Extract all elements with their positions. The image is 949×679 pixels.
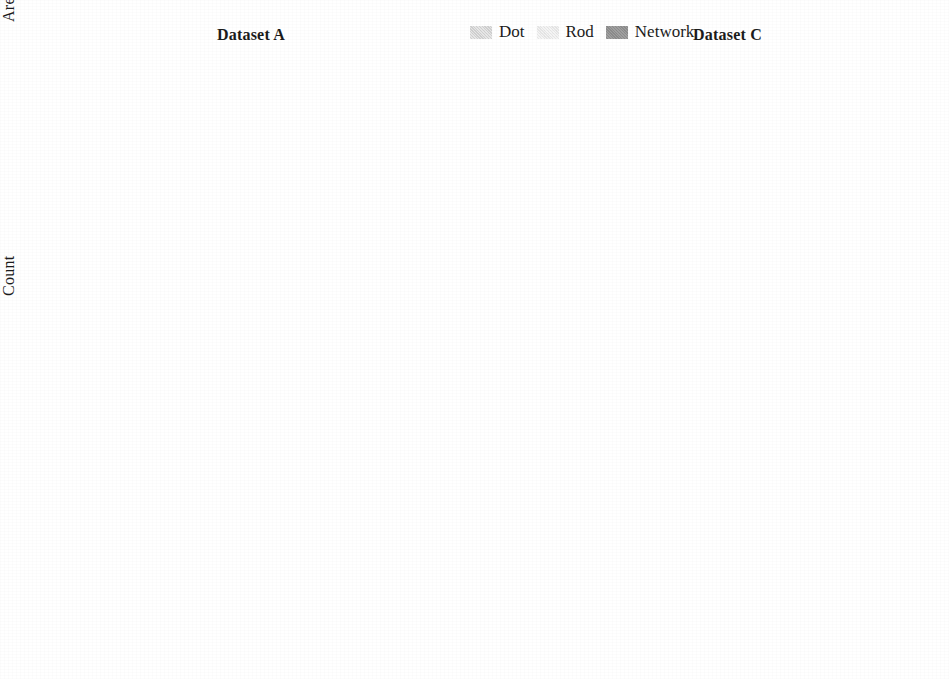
legend-label-network: Network [635, 22, 694, 42]
figure-root: Dataset A Area (Pixels) Dataset C Dot Ro… [0, 0, 949, 679]
legend-swatch-rod-icon [537, 26, 559, 39]
axis-label-count: Count [0, 255, 18, 296]
panel-title-dataset-a: Dataset A [12, 26, 490, 44]
panel-area-dataset-a: Dataset A Area (Pixels) [0, 22, 478, 290]
panel-area-dataset-c: Dataset C Dot Rod Network [470, 22, 949, 290]
legend-label-rod: Rod [566, 22, 594, 42]
legend-swatch-dot-icon [470, 26, 492, 39]
panel-count-dataset-c [470, 296, 949, 546]
panel-count-dataset-a: Count [0, 296, 478, 546]
axis-label-area-pixels: Area (Pixels) [0, 0, 18, 22]
legend-swatch-network-icon [606, 26, 628, 39]
legend-item-dot: Dot [470, 22, 525, 42]
legend: Dot Rod Network [470, 22, 694, 42]
legend-item-rod: Rod [537, 22, 594, 42]
legend-item-network: Network [606, 22, 694, 42]
legend-label-dot: Dot [499, 22, 525, 42]
